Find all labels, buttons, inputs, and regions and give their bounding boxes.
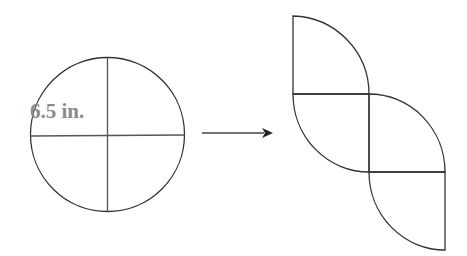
diagram-canvas: 6.5 in. — [0, 0, 467, 256]
sector-4 — [369, 172, 445, 250]
sector-3 — [369, 94, 445, 172]
rearranged-sectors — [293, 16, 445, 250]
diameter-label: 6.5 in. — [30, 101, 84, 122]
diagram-svg — [0, 0, 467, 256]
sector-1 — [293, 16, 369, 94]
sector-2 — [293, 94, 369, 172]
arrow — [202, 128, 273, 138]
circle-figure — [31, 58, 185, 212]
